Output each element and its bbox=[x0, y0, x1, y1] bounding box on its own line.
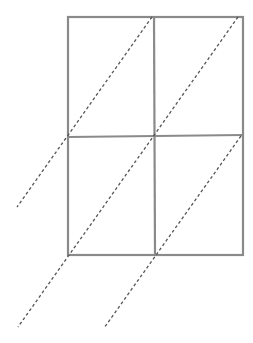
lattice-diagram bbox=[0, 0, 253, 343]
diagonals bbox=[17, 17, 241, 328]
grid-horizontal-divider bbox=[68, 135, 243, 137]
diagonal-line-2 bbox=[18, 17, 238, 327]
diagonal-line-1 bbox=[17, 17, 152, 207]
diagonal-line-3 bbox=[104, 136, 241, 328]
